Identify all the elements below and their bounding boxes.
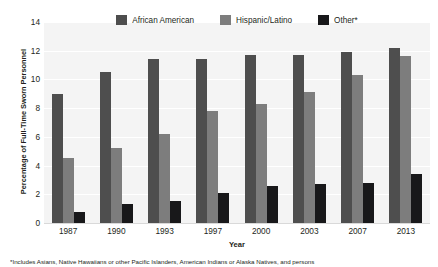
bar-groups [44, 22, 430, 223]
x-tick-label: 2007 [334, 226, 382, 240]
chart-footnote: *Includes Asians, Native Hawaiians or ot… [10, 258, 435, 267]
bar-group-2000 [245, 22, 278, 223]
bar [63, 158, 74, 223]
bar [293, 55, 304, 223]
bar [352, 75, 363, 223]
bar-chart: Percentage of Full-Time Sworn Personnel … [0, 0, 438, 267]
legend-label: Hispanic/Latino [236, 16, 292, 25]
bar [341, 52, 352, 223]
y-tick-label: 8 [0, 103, 40, 113]
legend-label: African American [132, 16, 194, 25]
bar-group-1993 [148, 22, 181, 223]
x-axis-line [44, 223, 430, 224]
bar [411, 174, 422, 223]
bar [207, 111, 218, 223]
bar [363, 183, 374, 223]
y-tick-label: 14 [0, 17, 40, 27]
y-tick-label: 12 [0, 46, 40, 56]
y-tick-label: 2 [0, 189, 40, 199]
y-axis-ticks: 02468101214 [0, 0, 40, 267]
bar [400, 56, 411, 223]
chart-legend: African AmericanHispanic/LatinoOther* [44, 14, 430, 26]
bar [304, 92, 315, 223]
bar-group-1987 [52, 22, 85, 223]
y-tick-label: 4 [0, 161, 40, 171]
bar [267, 186, 278, 223]
legend-swatch-icon [116, 15, 127, 25]
x-axis-ticks: 19871990199319972000200320072013 [44, 226, 430, 240]
bar [100, 72, 111, 223]
bar-group-2003 [293, 22, 326, 223]
legend-item: Hispanic/Latino [220, 15, 292, 25]
x-tick-label: 1990 [92, 226, 140, 240]
y-tick-label: 0 [0, 218, 40, 228]
legend-swatch-icon [220, 15, 231, 25]
legend-item: African American [116, 15, 194, 25]
y-tick-label: 6 [0, 132, 40, 142]
bar [315, 184, 326, 223]
bar [218, 193, 229, 223]
x-tick-label: 1993 [141, 226, 189, 240]
x-axis-title: Year [44, 240, 430, 249]
bar [256, 104, 267, 223]
bar [52, 94, 63, 223]
bar [74, 212, 85, 223]
x-tick-label: 1987 [44, 226, 92, 240]
bar [245, 55, 256, 223]
bar-group-1990 [100, 22, 133, 223]
x-tick-label: 2013 [382, 226, 430, 240]
bar-group-2007 [341, 22, 374, 223]
x-tick-label: 2003 [285, 226, 333, 240]
bar [389, 48, 400, 223]
bar [196, 59, 207, 223]
bar [170, 201, 181, 223]
bar-group-1997 [196, 22, 229, 223]
legend-label: Other* [334, 16, 358, 25]
legend-swatch-icon [318, 15, 329, 25]
x-tick-label: 2000 [237, 226, 285, 240]
bar [159, 134, 170, 223]
legend-item: Other* [318, 15, 358, 25]
y-tick-label: 10 [0, 74, 40, 84]
bar [148, 59, 159, 223]
x-tick-label: 1997 [189, 226, 237, 240]
bar [122, 204, 133, 223]
bar-group-2013 [389, 22, 422, 223]
bar [111, 148, 122, 223]
